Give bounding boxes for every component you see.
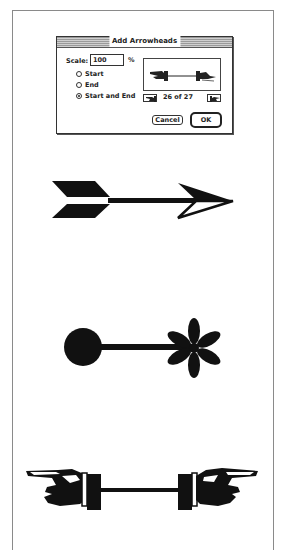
dialog-titlebar[interactable]: Add Arrowheads <box>57 37 232 48</box>
scale-label: Scale: <box>66 57 88 65</box>
radio-button[interactable] <box>76 71 82 77</box>
scale-input[interactable] <box>90 54 124 66</box>
radio-button-selected[interactable] <box>76 93 82 99</box>
radio-button[interactable] <box>76 82 82 88</box>
cancel-button[interactable]: Cancel <box>152 115 183 125</box>
next-arrowhead-button[interactable] <box>207 94 221 102</box>
pointing-hands-preview-icon <box>144 59 222 92</box>
arrowhead-counter: 26 of 27 <box>163 93 193 101</box>
radio-start[interactable]: Start <box>76 70 104 78</box>
dialog-title: Add Arrowheads <box>109 36 180 47</box>
radio-label: Start and End <box>85 92 135 100</box>
arrowhead-preview <box>143 58 221 91</box>
scale-unit: % <box>128 56 135 64</box>
radio-label: End <box>85 81 99 89</box>
radio-end[interactable]: End <box>76 81 99 89</box>
radio-start-and-end[interactable]: Start and End <box>76 92 135 100</box>
radio-label: Start <box>85 70 104 78</box>
left-pointing-hand-icon <box>144 95 158 103</box>
ok-button[interactable]: OK <box>190 112 222 128</box>
right-pointing-hand-icon <box>208 95 222 103</box>
add-arrowheads-dialog: Add Arrowheads Scale: % Start End Start … <box>56 36 233 134</box>
previous-arrowhead-button[interactable] <box>143 94 157 102</box>
